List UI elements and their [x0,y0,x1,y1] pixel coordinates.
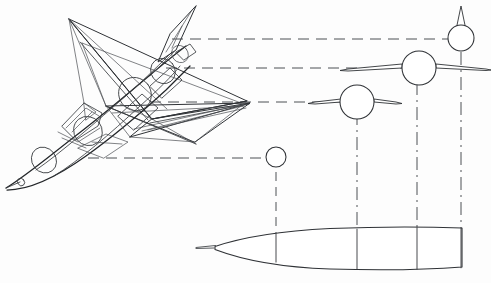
construction-line-1 [69,19,106,106]
section-circle-2 [340,85,374,119]
fuselage-outline [215,227,462,270]
section-circle-4 [448,25,474,51]
intake-duct-right [150,68,182,98]
aircraft-cross-section-figure [0,0,491,283]
canopy-windscreen [84,103,96,120]
section-circle-1 [266,147,286,167]
section-wing-right-2 [374,99,402,104]
station-lines-group [276,52,461,246]
cross-section-station-3 [340,51,491,85]
cross-section-station-1 [266,147,286,167]
wing-root-line-a [69,19,152,119]
projection-lines-group [88,39,452,158]
aircraft-perspective-view [6,6,250,190]
fuselage-nose-spike-lower [196,248,214,249]
vertical-fin-rudder-hinge [172,26,182,48]
construction-line-6 [69,19,84,103]
section-circle-3 [402,51,436,85]
fuselage-nose-spike [196,246,216,248]
fuselage-side-profile [196,227,462,270]
drawing-canvas [0,0,491,283]
cross-section-station-4 [448,6,474,51]
canopy-frame-2 [72,112,92,132]
construction-line-2 [82,43,106,106]
section-wing-right-3 [436,64,491,71]
nose-tip-ring [16,177,26,187]
cross-section-station-2 [308,85,402,119]
